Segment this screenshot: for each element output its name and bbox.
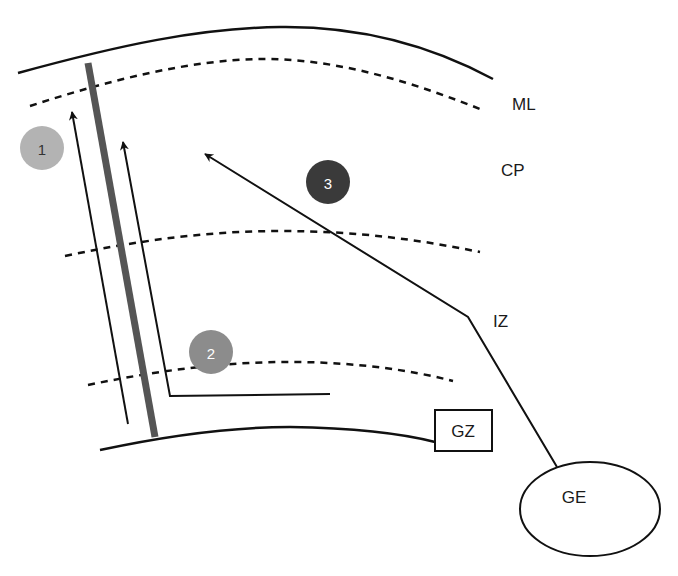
ventricular-surface-line — [100, 427, 435, 450]
label-iz: IZ — [493, 312, 508, 331]
marker-3: 3 — [306, 160, 350, 204]
marker-1: 1 — [20, 126, 64, 170]
marker-3-label: 3 — [324, 175, 332, 192]
label-ml: ML — [512, 95, 536, 114]
migration-arrow-3 — [205, 154, 557, 467]
radial-glia-fiber — [88, 63, 155, 437]
label-ge: GE — [562, 488, 587, 507]
ge-ellipse: GE — [520, 462, 660, 556]
marker-1-label: 1 — [38, 141, 46, 158]
migration-arrow-1 — [72, 112, 128, 424]
label-cp: CP — [501, 161, 525, 180]
marker-2-label: 2 — [207, 345, 215, 362]
neuronal-migration-diagram: 1 2 3 ML CP IZ GZ GE — [0, 0, 678, 576]
cp-iz-boundary-dashed-line — [65, 231, 480, 256]
gz-box: GZ — [435, 410, 492, 451]
marker-2: 2 — [189, 330, 233, 374]
label-gz: GZ — [451, 422, 475, 441]
